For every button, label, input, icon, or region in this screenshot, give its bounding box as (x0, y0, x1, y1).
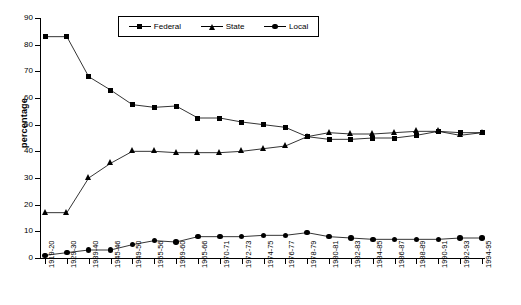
point-federal (348, 137, 353, 142)
point-federal (64, 34, 69, 39)
square-icon (137, 24, 142, 29)
point-state (369, 130, 375, 136)
point-state (326, 129, 332, 135)
point-local (457, 235, 463, 241)
legend-item-federal[interactable]: Federal (129, 23, 181, 31)
legend-item-local[interactable]: Local (264, 23, 308, 31)
x-tick (460, 259, 461, 264)
triangle-icon (209, 24, 215, 30)
point-local (479, 235, 485, 241)
point-state (85, 174, 91, 180)
point-local (370, 237, 376, 243)
point-local (108, 247, 114, 253)
point-federal (43, 34, 48, 39)
point-state (435, 127, 441, 133)
point-state (260, 145, 266, 151)
point-federal (195, 116, 200, 121)
legend-label: Local (289, 23, 308, 31)
x-tick (176, 259, 177, 264)
point-federal (261, 122, 266, 127)
point-federal (108, 88, 113, 93)
point-federal (86, 74, 91, 79)
y-tick-label: 60 (9, 94, 33, 102)
point-state (304, 133, 310, 139)
plot-area: 0102030405060708090 1919-201929-301939-4… (40, 18, 485, 258)
x-tick-label: 1994-95 (485, 240, 493, 268)
y-tick-label: 90 (9, 14, 33, 22)
y-tick-label: 10 (9, 227, 33, 235)
x-tick (395, 259, 396, 264)
point-state (238, 147, 244, 153)
x-tick (220, 259, 221, 264)
circle-icon (272, 24, 278, 30)
point-federal (392, 136, 397, 141)
point-state (173, 149, 179, 155)
y-tick-label: 80 (9, 41, 33, 49)
point-local (217, 234, 223, 240)
point-local (64, 250, 70, 256)
point-state (42, 209, 48, 215)
point-federal (130, 102, 135, 107)
point-state (151, 147, 157, 153)
point-federal (370, 136, 375, 141)
point-federal (327, 137, 332, 142)
point-state (129, 147, 135, 153)
x-tick (264, 259, 265, 264)
point-local (195, 234, 201, 240)
x-tick (482, 259, 483, 264)
point-federal (152, 105, 157, 110)
point-state (457, 131, 463, 137)
point-federal (239, 120, 244, 125)
y-tick-label: 20 (9, 201, 33, 209)
point-local (42, 253, 48, 259)
x-tick (89, 259, 90, 264)
point-local (283, 233, 289, 239)
point-state (194, 149, 200, 155)
point-federal (174, 104, 179, 109)
legend-item-state[interactable]: State (201, 23, 245, 31)
line-state (45, 131, 482, 212)
x-tick (111, 259, 112, 264)
point-local (436, 237, 442, 243)
y-tick-label: 30 (9, 174, 33, 182)
point-federal (414, 133, 419, 138)
y-tick-label: 50 (9, 121, 33, 129)
legend-marker-state (201, 26, 223, 27)
legend-marker-federal (129, 26, 151, 27)
point-local (348, 235, 354, 241)
legend-label: Federal (154, 23, 181, 31)
chart-container: percentage 0102030405060708090 1919-2019… (0, 0, 521, 305)
series-lines (40, 18, 485, 258)
y-tick-label: 0 (9, 254, 33, 262)
x-tick (373, 259, 374, 264)
y-tick-label: 40 (9, 147, 33, 155)
point-state (479, 129, 485, 135)
x-tick (242, 259, 243, 264)
point-state (107, 159, 113, 165)
point-local (173, 239, 179, 245)
chart-legend: FederalStateLocal (118, 16, 319, 37)
x-tick (329, 259, 330, 264)
point-state (216, 149, 222, 155)
x-tick (198, 259, 199, 264)
point-state (282, 142, 288, 148)
point-state (347, 130, 353, 136)
point-federal (283, 125, 288, 130)
point-state (413, 127, 419, 133)
point-federal (217, 116, 222, 121)
y-tick (35, 258, 40, 259)
point-state (391, 129, 397, 135)
x-tick (67, 259, 68, 264)
point-state (63, 209, 69, 215)
legend-label: State (226, 23, 245, 31)
x-tick (351, 259, 352, 264)
y-tick-label: 70 (9, 67, 33, 75)
x-tick (45, 259, 46, 264)
legend-marker-local (264, 26, 286, 27)
